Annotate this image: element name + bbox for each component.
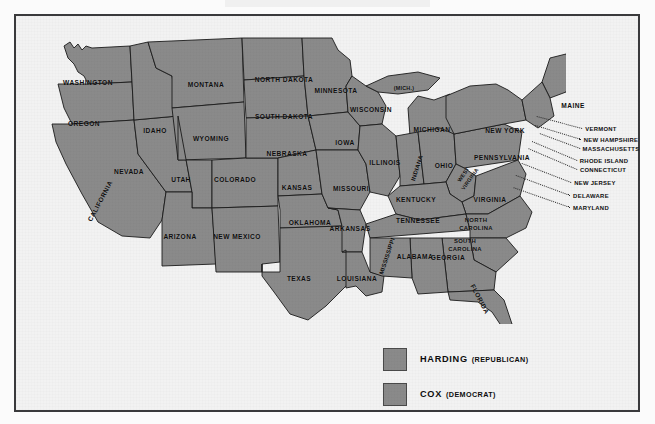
state-label-oregon: OREGON: [68, 120, 100, 127]
callout-label-new-hampshire: NEW HAMPSHIRE: [584, 137, 639, 143]
state-label-new-york: NEW YORK: [485, 127, 525, 134]
state-label-alabama: ALABAMA: [397, 253, 433, 260]
map-figure-frame: WASHINGTONOREGONIDAHOMONTANAWYOMINGNEVAD…: [14, 14, 640, 412]
state-label-idaho: IDAHO: [143, 127, 167, 134]
callout-label-massachusetts: MASSACHUSETTS: [583, 146, 640, 152]
state-label-north-dakota: NORTH DAKOTA: [255, 76, 313, 83]
state-label-pennsylvania: PENNSYLVANIA: [474, 154, 530, 161]
callout-label-vermont: VERMONT: [585, 126, 617, 132]
state-label-missouri: MISSOURI: [333, 185, 369, 192]
state-label-louisiana: LOUISIANA: [337, 275, 377, 282]
state-label-south-dakota: SOUTH DAKOTA: [255, 113, 313, 120]
map-legend: HARDING(REPUBLICAN)COX(DEMOCRAT): [383, 346, 529, 416]
legend-candidate-name: HARDING: [420, 354, 468, 364]
state-shape-alabama: [410, 238, 448, 294]
state-label-nebraska: NEBRASKA: [267, 150, 308, 157]
state-label-kansas: KANSAS: [282, 184, 313, 191]
state-label-nevada: NEVADA: [114, 168, 144, 175]
callout-label-connecticut: CONNECTICUT: [580, 167, 626, 173]
state-label-arkansas: ARKANSAS: [330, 225, 371, 232]
callout-label-rhode-island: RHODE ISLAND: [580, 158, 628, 164]
state-label-new-mexico: NEW MEXICO: [213, 233, 261, 240]
state-label-arizona: ARIZONA: [163, 233, 196, 240]
legend-candidate-party: (DEMOCRAT): [446, 390, 496, 399]
state-label-ohio: OHIO: [435, 162, 454, 169]
state-label-minnesota: MINNESOTA: [314, 87, 357, 94]
state-label-oklahoma: OKLAHOMA: [289, 219, 331, 226]
state-label-iowa: IOWA: [335, 139, 354, 146]
state-label-montana: MONTANA: [188, 81, 224, 88]
legend-swatch-harding: [383, 348, 407, 371]
state-label-texas: TEXAS: [287, 275, 311, 282]
state-label-utah: UTAH: [171, 176, 191, 183]
legend-item-cox: COX(DEMOCRAT): [383, 381, 529, 407]
legend-item-harding: HARDING(REPUBLICAN): [383, 346, 529, 372]
state-label-wisconsin: WISCONSIN: [350, 106, 392, 113]
legend-swatch-cox: [383, 383, 407, 406]
state-label-north-carolina: NORTH CAROLINA: [459, 217, 493, 232]
state-label-virginia: VIRGINIA: [474, 196, 507, 203]
state-label-mich: (MICH.): [394, 85, 414, 91]
state-label-illinois: ILLINOIS: [369, 159, 400, 166]
state-label-michigan: MICHIGAN: [414, 126, 451, 133]
state-label-tennessee: TENNESSEE: [396, 217, 440, 224]
legend-label-harding: HARDING(REPUBLICAN): [420, 354, 529, 364]
page-top-edge-strip: [225, 0, 430, 7]
legend-candidate-name: COX: [420, 389, 442, 399]
state-label-colorado: COLORADO: [214, 176, 256, 183]
callout-label-new-jersey: NEW JERSEY: [574, 180, 616, 186]
state-shape-oregon: [58, 82, 134, 124]
legend-label-cox: COX(DEMOCRAT): [420, 389, 496, 399]
state-shape-northdakota: [242, 38, 304, 80]
screenshot-root: WASHINGTONOREGONIDAHOMONTANAWYOMINGNEVAD…: [0, 0, 655, 424]
state-shape-colorado: [212, 158, 278, 208]
state-label-kentucky: KENTUCKY: [396, 196, 436, 203]
state-label-maine: MAINE: [561, 102, 585, 109]
state-label-south-carolina: SOUTH CAROLINA: [448, 238, 482, 253]
state-label-washington: WASHINGTON: [63, 79, 113, 86]
callout-label-maryland: MARYLAND: [573, 205, 609, 211]
callout-label-delaware: DELAWARE: [573, 193, 609, 199]
state-label-georgia: GEORGIA: [431, 254, 465, 261]
state-label-wyoming: WYOMING: [193, 135, 229, 142]
legend-candidate-party: (REPUBLICAN): [472, 355, 529, 364]
map-canvas: WASHINGTONOREGONIDAHOMONTANAWYOMINGNEVAD…: [16, 16, 638, 410]
